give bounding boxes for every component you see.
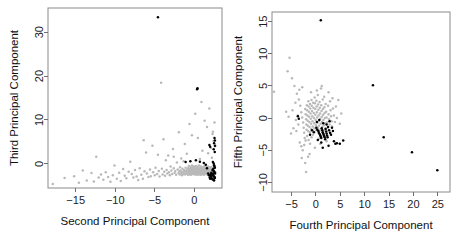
data-point: [302, 126, 305, 128]
data-point: [86, 179, 89, 182]
data-point: [299, 141, 302, 144]
data-point: [313, 96, 316, 99]
data-point: [333, 114, 336, 117]
data-point: [298, 98, 301, 101]
data-point: [214, 145, 217, 148]
data-point: [116, 178, 119, 181]
data-point: [311, 115, 314, 118]
data-point: [199, 158, 202, 161]
data-point: [82, 169, 85, 172]
data-point: [213, 121, 216, 124]
data-point: [320, 87, 323, 90]
data-point: [320, 85, 323, 88]
data-point: [196, 88, 199, 91]
data-point: [161, 173, 164, 176]
data-point: [195, 159, 198, 162]
data-point: [324, 138, 327, 141]
x-tick-label: 5: [337, 198, 343, 210]
left-plot-canvas: −15−10−500102030Second Principal Compone…: [0, 0, 232, 243]
data-point: [78, 181, 81, 184]
data-point: [104, 171, 107, 174]
x-tick-label: −5: [148, 194, 161, 206]
data-point: [328, 120, 331, 123]
data-point: [211, 156, 214, 159]
data-point: [320, 137, 323, 140]
data-point: [300, 111, 303, 114]
data-point: [157, 170, 160, 173]
data-point: [287, 116, 290, 119]
data-point: [186, 153, 189, 156]
y-tick-label: −10: [257, 173, 269, 192]
data-point: [330, 134, 333, 137]
data-point: [214, 139, 217, 142]
right-plot-canvas: −50510152025−10−5051015Fourth Principal …: [232, 0, 465, 243]
data-point: [201, 149, 204, 152]
series-background-samples: [52, 81, 217, 185]
data-point: [310, 136, 313, 139]
data-point: [157, 16, 160, 19]
data-point: [320, 19, 323, 22]
data-point: [206, 167, 209, 170]
data-point: [152, 171, 155, 174]
data-point: [150, 175, 153, 178]
y-tick-label: 15: [257, 16, 269, 28]
data-point: [170, 169, 173, 172]
data-point: [309, 131, 312, 134]
data-point: [325, 110, 328, 113]
y-tick-label: 10: [257, 48, 269, 60]
data-point: [314, 114, 317, 117]
data-point: [327, 113, 330, 116]
data-point: [286, 70, 289, 73]
data-point: [321, 98, 324, 101]
x-tick-label: 0: [313, 198, 319, 210]
data-point: [171, 173, 174, 176]
data-point: [301, 149, 304, 152]
data-point: [308, 121, 311, 124]
data-point: [143, 170, 146, 173]
data-point: [316, 111, 319, 114]
y-tick-label: −5: [257, 144, 269, 157]
data-point: [120, 180, 123, 183]
data-point: [203, 162, 206, 165]
data-point: [129, 160, 132, 163]
data-point: [317, 139, 320, 142]
data-point: [205, 163, 208, 166]
data-point: [52, 183, 55, 186]
data-point: [134, 169, 137, 172]
data-point: [146, 172, 149, 175]
data-point: [297, 115, 300, 118]
data-point: [382, 136, 385, 139]
data-point: [200, 101, 203, 104]
data-point: [293, 85, 296, 88]
data-point: [342, 139, 345, 142]
data-point: [194, 113, 197, 116]
data-point: [340, 112, 343, 115]
data-point: [151, 145, 154, 148]
data-point: [137, 179, 140, 182]
data-point: [162, 138, 165, 141]
x-tick-label: −5: [285, 198, 298, 210]
data-point: [310, 99, 313, 102]
series-highlighted-samples: [157, 16, 217, 182]
data-point: [307, 155, 310, 158]
data-point: [320, 141, 323, 144]
data-point: [147, 176, 150, 179]
data-point: [304, 162, 307, 165]
data-point: [173, 167, 176, 170]
data-point: [321, 146, 324, 149]
data-point: [154, 167, 157, 170]
data-point: [140, 174, 143, 177]
data-point: [213, 142, 216, 145]
data-point: [154, 174, 157, 177]
data-point: [301, 116, 304, 119]
data-point: [329, 100, 332, 103]
data-point: [300, 145, 303, 148]
data-point: [327, 126, 330, 129]
data-point: [335, 105, 338, 108]
data-point: [311, 105, 314, 108]
data-point: [299, 105, 302, 108]
data-point: [211, 133, 214, 136]
data-point: [175, 174, 178, 177]
data-point: [285, 110, 288, 113]
data-point: [113, 164, 116, 167]
